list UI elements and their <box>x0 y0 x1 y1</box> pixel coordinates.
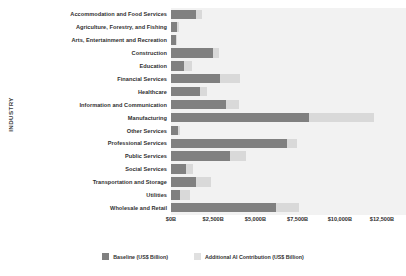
category-label: Construction <box>7 50 167 56</box>
bar-segment-baseline <box>171 203 276 212</box>
bar-segment-baseline <box>171 139 287 148</box>
category-label: Healthcare <box>7 89 167 95</box>
bar-row: Professional Services <box>0 137 406 150</box>
bar-segment-ai-contribution <box>226 100 240 109</box>
x-axis-tick-label: $12,500B <box>370 216 394 222</box>
category-label: Wholesale and Retail <box>7 205 167 211</box>
stacked-bar <box>171 139 297 148</box>
bar-segment-ai-contribution <box>213 48 219 57</box>
bar-segment-baseline <box>171 164 186 173</box>
bar-segment-ai-contribution <box>200 87 207 96</box>
stacked-bar <box>171 61 192 70</box>
bar-segment-baseline <box>171 61 184 70</box>
bar-segment-ai-contribution <box>287 139 297 148</box>
category-label: Other Services <box>7 128 167 134</box>
bar-segment-ai-contribution <box>176 35 177 44</box>
category-label: Manufacturing <box>7 115 167 121</box>
bar-segment-ai-contribution <box>309 113 373 122</box>
bar-segment-baseline <box>171 10 196 19</box>
bar-segment-baseline <box>171 151 230 160</box>
bar-row: Financial Services <box>0 73 406 86</box>
category-label: Transportation and Storage <box>7 179 167 185</box>
bar-segment-ai-contribution <box>196 10 202 19</box>
bar-segment-ai-contribution <box>196 177 211 186</box>
stacked-bar <box>171 190 190 199</box>
bar-row: Information and Communication <box>0 98 406 111</box>
x-axis-tick-label: $5,000B <box>245 216 266 222</box>
stacked-bar <box>171 35 177 44</box>
ai-contribution-swatch-icon <box>194 253 201 260</box>
bar-segment-baseline <box>171 190 180 199</box>
bar-segment-baseline <box>171 126 178 135</box>
category-label: Social Services <box>7 166 167 172</box>
category-label: Agriculture, Forestry, and Fishing <box>7 24 167 30</box>
stacked-bar <box>171 126 180 135</box>
bar-row: Construction <box>0 47 406 60</box>
bar-segment-ai-contribution <box>177 22 179 31</box>
bar-row: Manufacturing <box>0 111 406 124</box>
bar-segment-ai-contribution <box>184 61 192 70</box>
category-label: Education <box>7 63 167 69</box>
bar-row: Accommodation and Food Services <box>0 8 406 21</box>
bar-row: Transportation and Storage <box>0 176 406 189</box>
stacked-bar <box>171 113 374 122</box>
x-axis-tick-label: $10,000B <box>328 216 352 222</box>
bar-segment-baseline <box>171 87 200 96</box>
bar-segment-ai-contribution <box>276 203 299 212</box>
stacked-bar <box>171 203 299 212</box>
bar-row: Wholesale and Retail <box>0 202 406 215</box>
chart-legend: Baseline (US$ Billion) Additional AI Con… <box>0 253 406 260</box>
x-axis-ticks: $0B$2,500B$5,000B$7,500B$10,000B$12,500B <box>0 216 406 228</box>
bar-row: Utilities <box>0 189 406 202</box>
bar-segment-ai-contribution <box>186 164 193 173</box>
category-label: Arts, Entertainment and Recreation <box>7 37 167 43</box>
stacked-bar <box>171 87 207 96</box>
bar-row: Healthcare <box>0 85 406 98</box>
category-label: Public Services <box>7 153 167 159</box>
baseline-swatch-icon <box>102 253 109 260</box>
x-axis-tick-label: $0B <box>166 216 176 222</box>
stacked-bar <box>171 177 211 186</box>
stacked-bar <box>171 22 179 31</box>
bar-row: Arts, Entertainment and Recreation <box>0 34 406 47</box>
bar-row: Agriculture, Forestry, and Fishing <box>0 21 406 34</box>
bar-row: Public Services <box>0 150 406 163</box>
x-axis-tick-label: $2,500B <box>203 216 224 222</box>
stacked-bar <box>171 10 202 19</box>
bar-segment-ai-contribution <box>220 74 240 83</box>
category-label: Financial Services <box>7 76 167 82</box>
category-label: Information and Communication <box>7 102 167 108</box>
legend-item-baseline: Baseline (US$ Billion) <box>102 253 168 260</box>
bar-segment-ai-contribution <box>180 190 190 199</box>
bar-segment-ai-contribution <box>230 151 247 160</box>
stacked-bar <box>171 151 246 160</box>
bar-rows: Accommodation and Food ServicesAgricultu… <box>0 0 406 207</box>
legend-label-ai-contribution: Additional AI Contribution (US$ Billion) <box>205 254 304 260</box>
category-label: Professional Services <box>7 140 167 146</box>
stacked-bar <box>171 100 239 109</box>
bar-row: Other Services <box>0 124 406 137</box>
category-label: Accommodation and Food Services <box>7 11 167 17</box>
x-axis-tick-label: $7,500B <box>287 216 308 222</box>
category-label: Utilities <box>7 192 167 198</box>
bar-segment-baseline <box>171 113 309 122</box>
legend-label-baseline: Baseline (US$ Billion) <box>113 254 168 260</box>
bar-segment-baseline <box>171 100 226 109</box>
bar-chart: INDUSTRY Accommodation and Food Services… <box>0 0 406 276</box>
bar-segment-baseline <box>171 48 213 57</box>
legend-item-ai-contribution: Additional AI Contribution (US$ Billion) <box>194 253 304 260</box>
bar-row: Education <box>0 60 406 73</box>
stacked-bar <box>171 164 193 173</box>
bar-segment-baseline <box>171 74 220 83</box>
bar-row: Social Services <box>0 163 406 176</box>
stacked-bar <box>171 74 240 83</box>
bar-segment-baseline <box>171 177 196 186</box>
bar-segment-ai-contribution <box>178 126 180 135</box>
stacked-bar <box>171 48 219 57</box>
